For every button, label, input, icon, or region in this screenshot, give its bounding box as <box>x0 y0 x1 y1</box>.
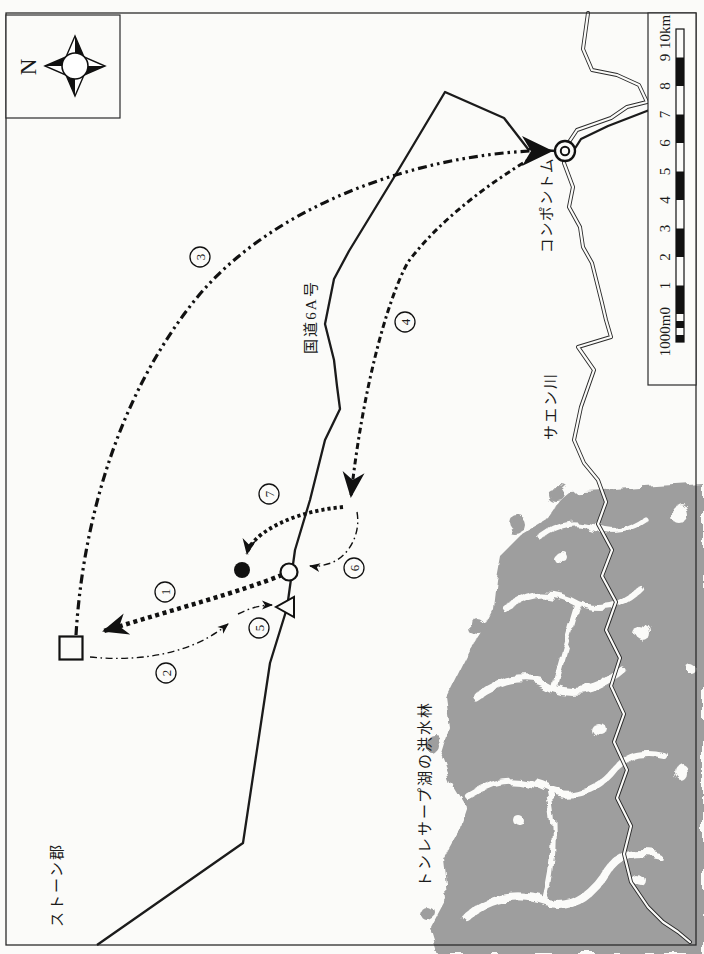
square-site-symbol <box>60 637 83 660</box>
scale-label-6: 6 <box>657 139 673 147</box>
route-1-badge: 1 <box>155 582 175 602</box>
svg-text:3: 3 <box>193 254 208 261</box>
scale-label-8: 8 <box>657 82 673 90</box>
forest-blob <box>549 488 563 502</box>
scale-bar: 1000m0 1 2 3 4 5 6 7 8 9 10km <box>648 13 696 385</box>
route-2-badge: 2 <box>156 663 176 683</box>
svg-text:1: 1 <box>158 589 173 596</box>
route-4-badge: 4 <box>395 312 415 332</box>
forest-blob <box>508 515 526 533</box>
compass: N <box>6 15 120 118</box>
map-page: { "compass": { "north_label": "N" }, "sc… <box>0 0 704 954</box>
svg-text:7: 7 <box>262 490 277 497</box>
svg-text:6: 6 <box>347 564 362 571</box>
svg-text:5: 5 <box>252 625 267 632</box>
scale-bar-segments <box>676 29 684 342</box>
scale-label-5: 5 <box>657 168 673 176</box>
label-national-route-6a: 国道6A号 <box>303 280 319 353</box>
scale-label-0: 1000m0 <box>657 307 673 356</box>
route-3-badge: 3 <box>190 247 210 267</box>
scale-label-7: 7 <box>657 110 673 118</box>
route-6-badge: 6 <box>344 558 364 578</box>
scale-label-1: 1 <box>657 282 673 290</box>
scale-label-9: 9 <box>657 54 673 62</box>
open-circle-site-symbol <box>281 564 298 581</box>
route-7-badge: 7 <box>259 484 279 504</box>
kompong-thom-town-symbol <box>555 141 575 161</box>
route-5-badge: 5 <box>249 618 269 638</box>
forest-blob <box>421 908 433 920</box>
svg-text:2: 2 <box>159 670 174 677</box>
scale-label-2: 2 <box>657 253 673 261</box>
svg-text:4: 4 <box>398 318 413 325</box>
scale-label-3: 3 <box>657 225 673 233</box>
compass-north-label: N <box>16 58 41 75</box>
label-stoung-district: ストーン郡 <box>49 843 65 927</box>
map-svg: N 1000m0 1 2 3 4 5 6 7 8 9 10km <box>0 0 704 954</box>
scale-label-4: 4 <box>657 196 673 204</box>
filled-circle-site-symbol <box>234 562 250 578</box>
label-kompong-thom: コンポントム <box>539 157 555 253</box>
forest-blob <box>472 616 488 632</box>
map-rotated-stage: N 1000m0 1 2 3 4 5 6 7 8 9 10km <box>0 0 704 954</box>
label-saen-river: サエン川 <box>543 372 559 440</box>
label-tonle-sap-flooded-forest: トンレサープ湖の洪水林 <box>417 701 433 887</box>
scale-label-10: 10km <box>657 15 673 50</box>
